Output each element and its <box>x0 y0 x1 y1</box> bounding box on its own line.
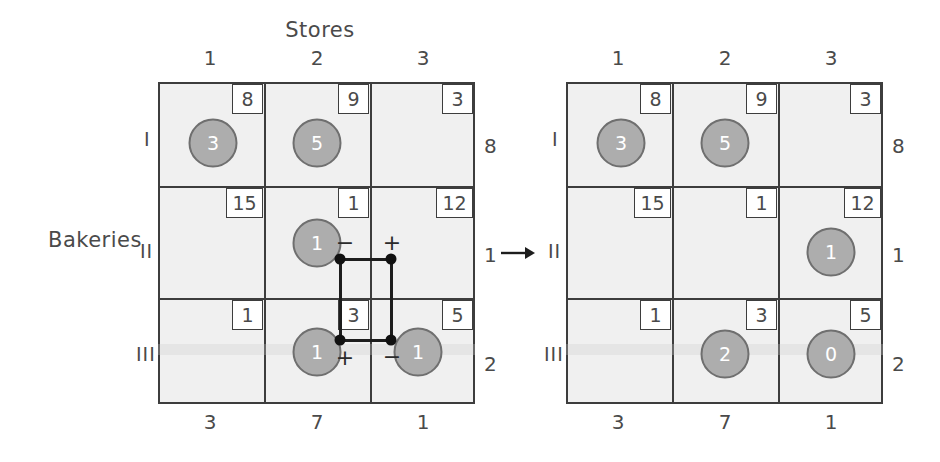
left-demand-3: 1 <box>417 410 430 434</box>
right-cost-II-2: 1 <box>746 188 777 218</box>
left-row-divider-2 <box>160 298 473 300</box>
right-allocation-II-3: 1 <box>807 228 856 277</box>
cycle-sign-II-3: + <box>383 232 401 254</box>
right-allocation-I-1: 3 <box>597 119 646 168</box>
right-column-header-3: 3 <box>825 46 838 70</box>
rows-title: Bakeries <box>48 228 142 252</box>
left-supply-II: 1 <box>484 243 497 267</box>
left-supply-I: 8 <box>484 134 497 158</box>
right-cost-II-1: 15 <box>634 188 671 218</box>
right-col-divider-1 <box>672 84 674 402</box>
left-allocation-III-2: 1 <box>293 328 342 377</box>
left-row-divider-1 <box>160 186 473 188</box>
left-col-divider-1 <box>264 84 266 402</box>
transportation-tableau-figure: Stores 1 2 3 Bakeries I II III 8 9 3 15 … <box>0 0 940 462</box>
left-cost-II-1: 15 <box>226 188 263 218</box>
cycle-edge-left <box>339 258 342 340</box>
right-demand-2: 7 <box>719 410 732 434</box>
left-allocation-I-1: 3 <box>189 119 238 168</box>
right-demand-1: 3 <box>612 410 625 434</box>
left-demand-2: 7 <box>311 410 324 434</box>
right-demand-3: 1 <box>825 410 838 434</box>
left-allocation-I-2: 5 <box>293 119 342 168</box>
right-allocation-I-2: 5 <box>701 119 750 168</box>
right-col-divider-2 <box>778 84 780 402</box>
left-cost-III-3: 5 <box>442 300 473 330</box>
left-cost-I-2: 9 <box>338 84 369 114</box>
right-cost-III-1: 1 <box>640 300 671 330</box>
transition-arrow-icon <box>500 240 536 266</box>
cycle-edge-top <box>340 258 392 261</box>
left-col-divider-2 <box>370 84 372 402</box>
right-row-divider-1 <box>568 186 881 188</box>
left-demand-1: 3 <box>204 410 217 434</box>
right-supply-I: 8 <box>892 134 905 158</box>
cycle-node-II-3 <box>386 254 397 265</box>
cycle-sign-III-3: − <box>383 346 401 368</box>
right-cost-I-3: 3 <box>850 84 881 114</box>
left-row-header-I: I <box>144 128 151 150</box>
left-cost-II-3: 12 <box>436 188 473 218</box>
left-cost-III-2: 3 <box>338 300 369 330</box>
right-supply-II: 1 <box>892 243 905 267</box>
left-column-header-2: 2 <box>311 46 324 70</box>
right-column-header-2: 2 <box>719 46 732 70</box>
right-column-header-1: 1 <box>612 46 625 70</box>
left-cost-I-3: 3 <box>442 84 473 114</box>
left-supply-III: 2 <box>484 352 497 376</box>
left-cost-III-1: 1 <box>232 300 263 330</box>
left-column-header-1: 1 <box>204 46 217 70</box>
right-row-header-III: III <box>544 343 564 365</box>
right-row-header-I: I <box>552 128 559 150</box>
right-cost-I-2: 9 <box>746 84 777 114</box>
left-row-header-III: III <box>136 343 156 365</box>
left-cost-II-2: 1 <box>338 188 369 218</box>
right-cost-II-3: 12 <box>844 188 881 218</box>
cycle-node-III-2 <box>335 335 346 346</box>
left-cost-I-1: 8 <box>232 84 263 114</box>
left-row-header-II: II <box>140 240 153 262</box>
right-allocation-III-2: 2 <box>701 330 750 379</box>
cycle-edge-right <box>390 258 393 340</box>
columns-title: Stores <box>285 18 354 42</box>
cycle-sign-III-2: + <box>336 347 354 369</box>
right-cost-III-2: 3 <box>746 300 777 330</box>
cycle-node-II-2 <box>335 254 346 265</box>
left-column-header-3: 3 <box>417 46 430 70</box>
cycle-edge-bottom <box>340 339 392 342</box>
right-cost-III-3: 5 <box>850 300 881 330</box>
right-row-header-II: II <box>548 240 561 262</box>
right-row-divider-2 <box>568 298 881 300</box>
right-allocation-III-3: 0 <box>807 330 856 379</box>
right-supply-III: 2 <box>892 352 905 376</box>
cycle-sign-II-2: − <box>336 232 354 254</box>
right-cost-I-1: 8 <box>640 84 671 114</box>
